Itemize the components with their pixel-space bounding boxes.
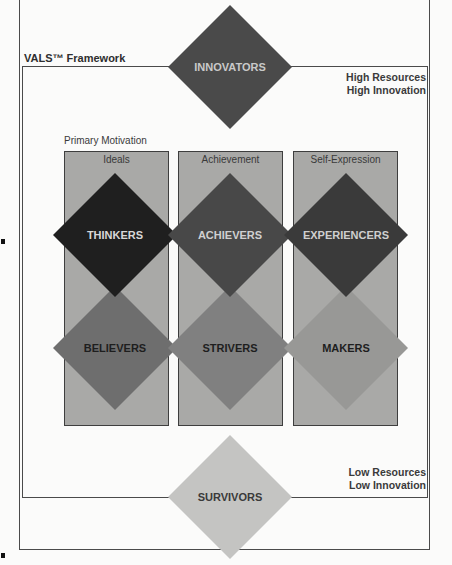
tick-mark-lower xyxy=(1,553,5,558)
segment-label: BELIEVERS xyxy=(84,342,146,354)
tick-mark-upper xyxy=(1,239,5,244)
segment-label: STRIVERS xyxy=(202,342,257,354)
segment-survivors: SURVIVORS xyxy=(168,435,292,559)
segment-strivers: STRIVERS xyxy=(168,286,292,410)
segment-diamonds: SURVIVORSBELIEVERSSTRIVERSMAKERSTHINKERS… xyxy=(0,0,452,565)
segment-label: EXPERIENCERS xyxy=(303,229,389,241)
segment-innovators: INNOVATORS xyxy=(168,5,292,129)
segment-thinkers: THINKERS xyxy=(53,173,177,297)
segment-label: SURVIVORS xyxy=(198,491,263,503)
segment-experiencers: EXPERIENCERS xyxy=(284,173,408,297)
segment-label: THINKERS xyxy=(87,229,143,241)
segment-label: MAKERS xyxy=(322,342,370,354)
segment-label: INNOVATORS xyxy=(194,61,266,73)
segment-believers: BELIEVERS xyxy=(53,286,177,410)
segment-makers: MAKERS xyxy=(284,286,408,410)
segment-achievers: ACHIEVERS xyxy=(168,173,292,297)
segment-label: ACHIEVERS xyxy=(198,229,262,241)
